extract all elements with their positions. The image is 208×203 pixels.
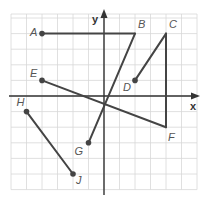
x-axis-label: x bbox=[190, 100, 197, 112]
point-E-dot bbox=[39, 78, 45, 84]
point-label-G: G bbox=[75, 145, 84, 157]
point-label-F: F bbox=[168, 131, 176, 143]
segments bbox=[27, 34, 167, 174]
point-label-C: C bbox=[169, 18, 177, 30]
y-axis-label: y bbox=[92, 13, 99, 25]
axes: x y bbox=[9, 9, 200, 195]
coordinate-plane: x y ABCDEFGHJ bbox=[0, 0, 208, 203]
point-H-dot bbox=[24, 109, 30, 115]
point-label-A: A bbox=[29, 26, 37, 38]
point-D-dot bbox=[132, 78, 138, 84]
point-label-H: H bbox=[17, 96, 25, 108]
point-label-B: B bbox=[138, 18, 145, 30]
point-label-D: D bbox=[123, 81, 131, 93]
point-J-dot bbox=[70, 171, 76, 177]
point-A-dot bbox=[39, 31, 45, 37]
y-axis-arrow-icon bbox=[101, 9, 108, 18]
point-G-dot bbox=[86, 140, 92, 146]
point-label-J: J bbox=[75, 174, 82, 186]
x-axis-arrow-icon bbox=[191, 93, 200, 100]
point-label-E: E bbox=[30, 67, 38, 79]
